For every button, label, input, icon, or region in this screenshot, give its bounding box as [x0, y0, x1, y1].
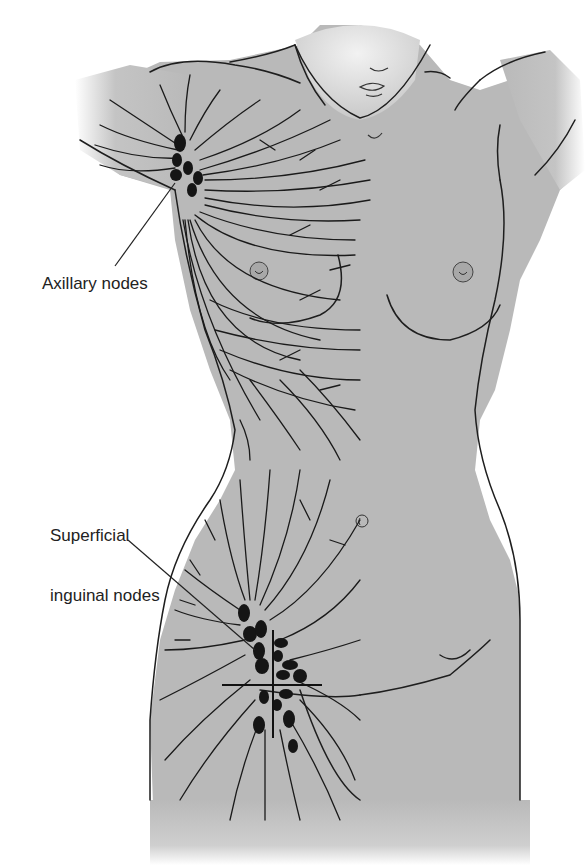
axillary-leader-line — [115, 183, 175, 266]
lymphatic-drainage-diagram — [0, 0, 586, 865]
torso — [75, 25, 585, 865]
inguinal-label-line2: inguinal nodes — [50, 586, 160, 606]
nipple-right — [453, 262, 473, 282]
axillary-nodes-label: Axillary nodes — [42, 274, 148, 294]
inguinal-label-line1: Superficial — [50, 526, 160, 546]
superficial-inguinal-nodes-label: Superficial inguinal nodes — [50, 486, 160, 626]
